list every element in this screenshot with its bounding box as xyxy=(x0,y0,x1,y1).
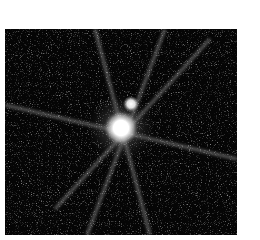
companion-star xyxy=(123,96,139,112)
star-image xyxy=(5,29,237,235)
starfield-graphic xyxy=(5,29,237,235)
primary-star xyxy=(104,111,138,145)
